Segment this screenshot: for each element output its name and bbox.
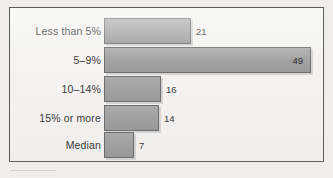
chart-row: 15% or more 14 [10,105,323,131]
bar-wrapper: 49 [104,47,311,73]
bar[interactable]: 21 [104,18,191,44]
category-label: Median [66,139,101,151]
bar-wrapper: 14 [104,105,159,131]
bar-wrapper: 16 [104,76,161,102]
bar-wrapper: 21 [104,18,191,44]
category-label: 15% or more [39,112,101,124]
bar-chart-plot: Less than 5% 21 5–9% 49 10–14% [10,8,323,161]
chart-row: Median 7 [10,132,323,158]
chart-row: 5–9% 49 [10,47,323,73]
bar[interactable]: 49 [104,47,311,73]
bar-wrapper: 7 [104,132,134,158]
bar-value-label: 7 [139,140,144,151]
category-label: 5–9% [74,54,101,66]
chart-frame: Less than 5% 21 5–9% 49 10–14% [9,7,324,162]
category-label: 10–14% [62,83,101,95]
bar[interactable]: 14 [104,105,159,131]
bar[interactable]: 7 [104,132,134,158]
chart-row: 10–14% 16 [10,76,323,102]
scan-artifact-line [10,170,56,171]
bar[interactable]: 16 [104,76,161,102]
bar-value-label: 14 [164,113,175,124]
bar-value-label: 21 [196,26,207,37]
bar-value-label: 16 [166,84,177,95]
bar-value-label: 49 [292,55,303,66]
chart-row: Less than 5% 21 [10,18,323,44]
category-label: Less than 5% [36,25,101,37]
figure-container: Less than 5% 21 5–9% 49 10–14% [0,0,333,178]
